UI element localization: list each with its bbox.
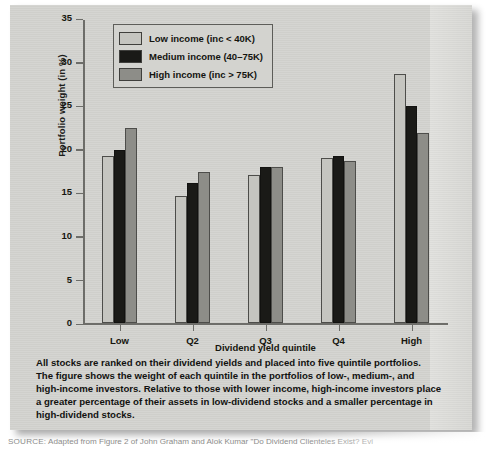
y-tick: 10 <box>76 236 83 237</box>
bar <box>344 161 356 323</box>
x-tick <box>412 325 413 331</box>
y-tick-label: 30 <box>61 56 72 67</box>
legend-item: Low income (inc < 40K) <box>119 29 263 47</box>
y-tick: 5 <box>76 280 83 281</box>
caption-line: All stocks are ranked on their dividend … <box>36 356 436 369</box>
bar <box>394 74 406 323</box>
y-tick-label: 15 <box>61 186 72 197</box>
y-tick: 20 <box>76 149 83 150</box>
bar <box>333 156 345 323</box>
legend-label: Low income (inc < 40K) <box>149 33 255 44</box>
legend-label: Medium income (40–75K) <box>149 51 263 62</box>
caption-line: The figure shows the weight of each quin… <box>36 369 436 382</box>
legend-item: High income (inc > 75K) <box>119 65 263 83</box>
x-axis-title: Dividend yield quintile <box>83 342 448 353</box>
y-tick: 25 <box>76 106 83 107</box>
bar <box>187 183 199 323</box>
caption-line: high-dividend stocks. <box>36 408 436 421</box>
y-tick-label: 20 <box>61 143 72 154</box>
chart-legend: Low income (inc < 40K)Medium income (40–… <box>113 24 273 88</box>
x-tick <box>266 325 267 331</box>
legend-swatch-icon <box>119 68 142 81</box>
bar <box>102 156 114 323</box>
bar <box>125 128 137 323</box>
y-tick-label: 25 <box>61 99 72 110</box>
bar <box>260 167 272 324</box>
y-tick: 0 <box>76 324 83 325</box>
legend-label: High income (inc > 75K) <box>149 69 257 80</box>
y-axis-line <box>83 20 85 325</box>
source-note: SOURCE: Adapted from Figure 2 of John Gr… <box>8 437 498 446</box>
y-tick-label: 35 <box>61 12 72 23</box>
x-tick <box>120 325 121 331</box>
y-tick: 35 <box>76 19 83 20</box>
x-tick <box>193 325 194 331</box>
bar <box>417 133 429 323</box>
caption-line: a greater percentage of their assets in … <box>36 395 436 408</box>
caption-line: high-income investors. Relative to those… <box>36 382 436 395</box>
bar-chart: Portfolio weight (in %) 05101520253035 L… <box>10 5 472 350</box>
bar <box>175 196 187 323</box>
scanned-page: Portfolio weight (in %) 05101520253035 L… <box>0 0 499 454</box>
bar <box>271 167 283 324</box>
source-text: Adapted from Figure 2 of John Graham and… <box>48 437 373 446</box>
source-prefix: SOURCE: <box>8 437 46 446</box>
legend-item: Medium income (40–75K) <box>119 47 263 65</box>
y-tick-label: 5 <box>67 274 72 285</box>
bar <box>321 158 333 324</box>
x-tick <box>339 325 340 331</box>
bar <box>406 106 418 324</box>
bar <box>248 175 260 323</box>
bar <box>198 172 210 324</box>
y-tick-label: 10 <box>61 230 72 241</box>
y-tick: 15 <box>76 193 83 194</box>
legend-swatch-icon <box>119 32 142 45</box>
bar <box>114 150 126 323</box>
y-tick: 30 <box>76 62 83 63</box>
figure-caption: All stocks are ranked on their dividend … <box>36 356 436 421</box>
legend-swatch-icon <box>119 50 142 63</box>
y-tick-label: 0 <box>67 317 72 328</box>
